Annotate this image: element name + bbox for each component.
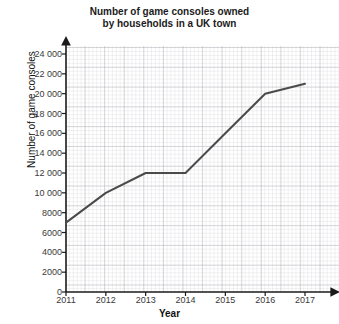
y-axis-title: Number of game consoles [26, 30, 37, 190]
x-tick-label: 2016 [255, 295, 275, 305]
x-tick-label: 2013 [136, 295, 156, 305]
x-tick-label: 2011 [56, 295, 75, 305]
y-tick-label: 6000 [18, 228, 62, 238]
y-axis-tick-labels: 0200040006000800010 00012 00014 00016 00… [14, 0, 62, 324]
x-axis-title: Year [0, 308, 339, 319]
plot-area [66, 46, 339, 292]
y-tick-label: 8000 [18, 208, 62, 218]
y-tick-label: 4000 [18, 247, 62, 257]
x-tick-label: 2014 [175, 295, 195, 305]
x-tick-label: 2015 [215, 295, 235, 305]
line-chart: Number of game consoles owned by househo… [0, 0, 339, 324]
x-tick-label: 2017 [295, 295, 315, 305]
x-tick-label: 2012 [96, 295, 116, 305]
y-tick-label: 2000 [18, 267, 62, 277]
